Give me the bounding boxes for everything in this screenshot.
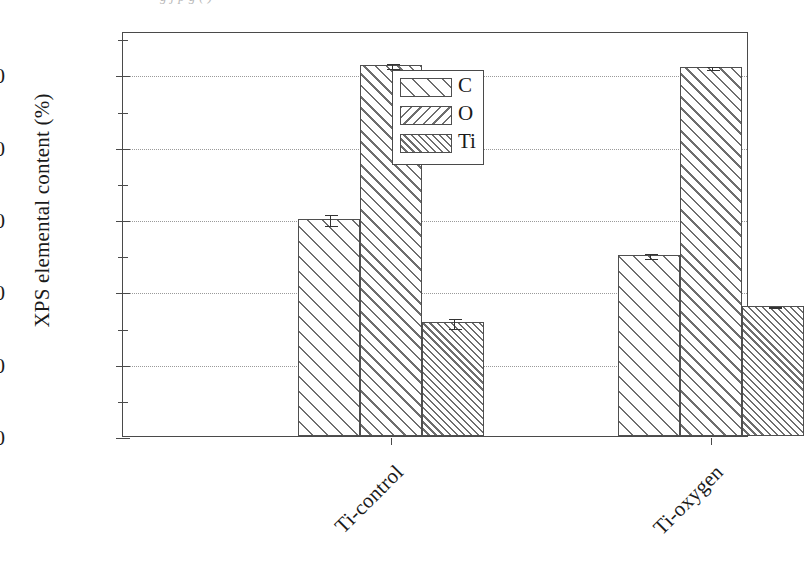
errorbar-ti-control-c <box>330 215 331 227</box>
x-axis-label-ti-oxygen: Ti-oxygen <box>605 460 729 578</box>
y-tick-label-10: 10 <box>0 355 5 376</box>
chart-legend: COTi <box>392 70 484 165</box>
y-tick-label-0: 0 <box>0 428 5 449</box>
errorbar-ti-control-ti <box>454 319 455 329</box>
x-axis-label-ti-control: Ti-control <box>285 460 409 578</box>
y-tick-major-50 <box>116 76 130 77</box>
legend-label-c: C <box>458 75 472 96</box>
bar-ti-oxygen-c <box>618 255 680 436</box>
legend-swatch-ti <box>400 134 452 153</box>
errorbar-ti-oxygen-c <box>650 254 651 260</box>
y-tick-minor-15 <box>118 330 128 331</box>
y-tick-major-0 <box>116 438 130 439</box>
errorbar-ti-oxygen-ti <box>774 307 775 309</box>
legend-label-ti: Ti <box>458 131 476 152</box>
y-tick-label-40: 40 <box>0 138 5 159</box>
errorbar-ti-oxygen-o <box>712 67 713 71</box>
x-tick-ti-oxygen <box>711 438 712 445</box>
bar-ti-oxygen-o <box>680 67 742 436</box>
legend-item-c: C <box>400 78 480 99</box>
y-tick-major-40 <box>116 149 130 150</box>
y-tick-major-20 <box>116 293 130 294</box>
legend-item-ti: Ti <box>400 134 480 155</box>
legend-swatch-c <box>400 78 452 97</box>
y-tick-minor-55 <box>118 40 128 41</box>
legend-swatch-o <box>400 106 452 125</box>
errorbar-ti-control-o <box>392 64 393 70</box>
x-tick-ti-control <box>391 438 392 445</box>
y-tick-minor-35 <box>118 185 128 186</box>
bar-ti-control-c <box>298 219 360 436</box>
y-tick-minor-5 <box>118 402 128 403</box>
gridline-30 <box>123 221 747 222</box>
y-tick-major-10 <box>116 366 130 367</box>
y-tick-label-20: 20 <box>0 283 5 304</box>
bar-ti-oxygen-ti <box>742 306 804 436</box>
y-tick-label-30: 30 <box>0 211 5 232</box>
legend-label-o: O <box>458 103 473 124</box>
legend-item-o: O <box>400 106 480 127</box>
bar-ti-control-ti <box>422 322 484 436</box>
y-tick-label-50: 50 <box>0 66 5 87</box>
y-tick-minor-45 <box>118 113 128 114</box>
y-tick-minor-25 <box>118 257 128 258</box>
y-tick-major-30 <box>116 221 130 222</box>
y-axis-title: XPS elemental content (%) <box>30 1 55 421</box>
